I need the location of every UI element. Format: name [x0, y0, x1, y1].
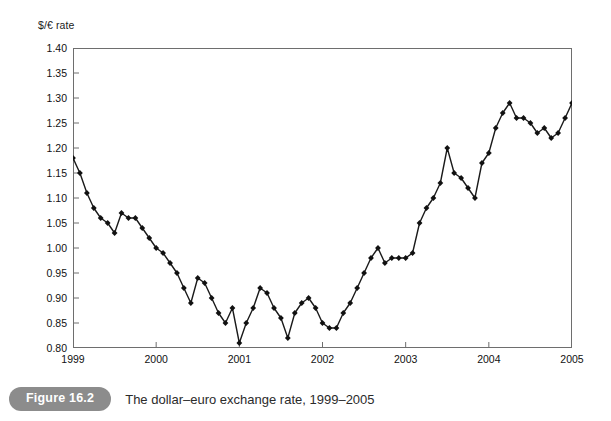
data-point-marker	[437, 180, 443, 186]
figure-number-badge: Figure 16.2	[9, 387, 111, 411]
data-point-marker	[354, 285, 360, 291]
y-tick-label: 1.15	[47, 167, 67, 179]
x-tick-label: 2001	[228, 353, 251, 365]
y-tick-label: 1.10	[47, 192, 67, 204]
y-tick-label: 1.35	[47, 67, 67, 79]
plot-area	[73, 48, 572, 348]
y-axis-tick-labels: 1.401.351.301.251.201.151.101.051.000.95…	[30, 48, 67, 348]
y-tick-label: 1.05	[47, 217, 67, 229]
data-point-marker	[333, 325, 339, 331]
x-tick-label: 2005	[560, 353, 583, 365]
data-point-marker	[444, 145, 450, 151]
y-tick-label: 1.20	[47, 142, 67, 154]
data-point-marker	[493, 125, 499, 131]
y-axis-title: $/€ rate	[38, 19, 74, 31]
y-tick-label: 1.25	[47, 117, 67, 129]
y-tick-label: 1.00	[47, 242, 67, 254]
data-point-marker	[236, 340, 242, 346]
y-tick-label: 0.85	[47, 317, 67, 329]
data-point-marker	[396, 255, 402, 261]
data-point-marker	[84, 190, 90, 196]
data-point-marker	[562, 115, 568, 121]
line-chart-svg	[73, 48, 572, 348]
x-tick-label: 1999	[61, 353, 84, 365]
data-point-marker	[361, 270, 367, 276]
data-point-marker	[243, 320, 249, 326]
figure-container: $/€ rate 1.401.351.301.251.201.151.101.0…	[0, 0, 611, 421]
y-tick-label: 0.95	[47, 267, 67, 279]
data-point-marker	[181, 285, 187, 291]
y-tick-label: 1.30	[47, 92, 67, 104]
y-tick-label: 0.90	[47, 292, 67, 304]
x-tick-label: 2002	[311, 353, 334, 365]
data-point-marker	[417, 220, 423, 226]
x-tick-label: 2004	[477, 353, 500, 365]
figure-caption-bar: Figure 16.2 The dollar–euro exchange rat…	[0, 384, 611, 414]
data-line	[73, 103, 572, 343]
x-tick-label: 2000	[144, 353, 167, 365]
data-point-marker	[285, 335, 291, 341]
data-point-marker	[230, 305, 236, 311]
y-tick-label: 1.40	[47, 42, 67, 54]
figure-caption-text: The dollar–euro exchange rate, 1999–2005	[125, 392, 374, 407]
x-axis-tick-labels: 1999200020012002200320042005	[73, 353, 572, 369]
data-point-marker	[77, 170, 83, 176]
data-point-marker	[209, 295, 215, 301]
data-point-marker	[514, 115, 520, 121]
x-tick-label: 2003	[394, 353, 417, 365]
data-point-marker	[188, 300, 194, 306]
data-point-marker	[250, 305, 256, 311]
